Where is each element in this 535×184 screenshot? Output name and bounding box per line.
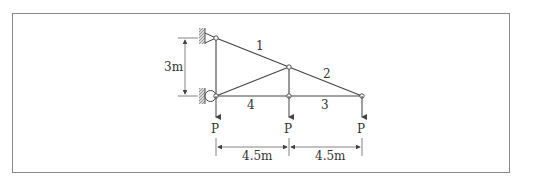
load-label-p1: P: [211, 122, 219, 136]
span-right-label: 4.5m: [315, 149, 346, 163]
truss-diagram: 1 2 3 4 P P P 3m 4.5m 4.5m: [0, 0, 535, 184]
member-diagonal: [216, 67, 289, 96]
height-label: 3m: [164, 60, 184, 74]
load-arrows: [216, 96, 362, 117]
member-label-1: 1: [256, 39, 264, 53]
load-label-p2: P: [284, 122, 292, 136]
pin-support: [199, 28, 216, 44]
member-label-4: 4: [247, 98, 255, 112]
load-label-p3: P: [357, 122, 365, 136]
member-label-2: 2: [323, 67, 331, 81]
member-label-3: 3: [321, 98, 329, 112]
span-left-label: 4.5m: [242, 149, 273, 163]
